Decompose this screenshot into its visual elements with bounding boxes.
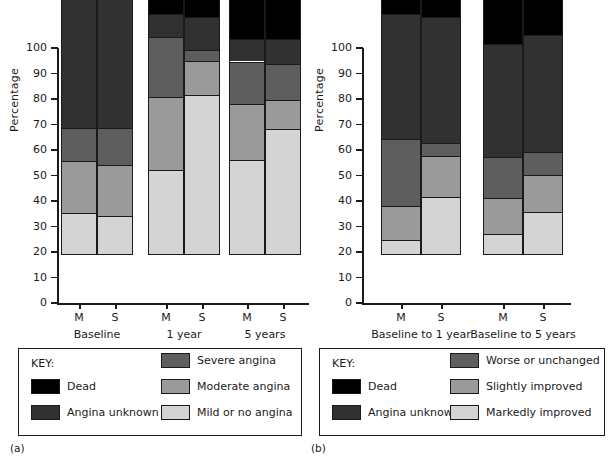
bar-segment[interactable] xyxy=(185,95,219,254)
legend-swatch xyxy=(161,353,190,368)
bar-segment[interactable] xyxy=(382,206,420,240)
bar-segment[interactable] xyxy=(62,213,96,254)
legend-label: Markedly improved xyxy=(486,406,592,419)
bar-segment[interactable] xyxy=(524,152,562,175)
bar-segment[interactable] xyxy=(382,240,420,254)
y-tick-label-0: 0 xyxy=(0,297,47,308)
bar-segment[interactable] xyxy=(149,97,183,170)
y-tick-100 xyxy=(51,47,58,49)
bar-segment[interactable] xyxy=(230,39,264,62)
x-tick-label: M xyxy=(161,311,171,324)
y-tick-label-60: 60 xyxy=(305,144,352,155)
bar-segment[interactable] xyxy=(266,39,300,65)
stacked-bar[interactable] xyxy=(523,0,563,255)
stacked-bar[interactable] xyxy=(483,0,523,255)
bar-segment[interactable] xyxy=(422,197,460,254)
stacked-bar[interactable] xyxy=(97,0,133,255)
bar-segment[interactable] xyxy=(230,62,264,104)
bar-segment[interactable] xyxy=(422,17,460,143)
y-tick-20 xyxy=(51,251,58,253)
bar-segment[interactable] xyxy=(98,165,132,216)
bar-segment[interactable] xyxy=(230,104,264,160)
x-tick-label: S xyxy=(112,311,119,324)
bar-segment[interactable] xyxy=(266,0,300,39)
bar-segment[interactable] xyxy=(422,0,460,17)
bar-segment[interactable] xyxy=(422,156,460,197)
bar-segment[interactable] xyxy=(98,0,132,128)
bar-segment[interactable] xyxy=(524,212,562,254)
y-tick-30 xyxy=(51,226,58,228)
bar-segment[interactable] xyxy=(62,128,96,161)
legend-label: Dead xyxy=(368,380,397,393)
bar-segment[interactable] xyxy=(185,0,219,17)
bar-segment[interactable] xyxy=(382,14,420,139)
x-group-label: 1 year xyxy=(166,328,201,341)
bar-segment[interactable] xyxy=(98,128,132,165)
y-tick-label-50: 50 xyxy=(0,170,47,181)
stacked-bar[interactable] xyxy=(184,0,220,255)
y-tick-label-20: 20 xyxy=(0,246,47,257)
bar-segment[interactable] xyxy=(382,139,420,205)
legend-item: Slightly improved xyxy=(450,379,582,394)
bar-segment[interactable] xyxy=(484,0,522,44)
y-tick-label-80: 80 xyxy=(305,93,352,104)
y-tick-label-70: 70 xyxy=(0,119,47,130)
bar-segment[interactable] xyxy=(524,35,562,152)
legend-label: Slightly improved xyxy=(486,380,582,393)
bar-segment[interactable] xyxy=(266,100,300,129)
bar-segment[interactable] xyxy=(185,61,219,94)
legend-item: Angina unknown xyxy=(332,405,460,420)
bar-segment[interactable] xyxy=(149,170,183,254)
y-tick-90 xyxy=(51,73,58,75)
stacked-bar[interactable] xyxy=(229,0,265,255)
x-tick-label: S xyxy=(540,311,547,324)
bar-segment[interactable] xyxy=(185,17,219,50)
bar-segment[interactable] xyxy=(422,143,460,156)
legend-swatch xyxy=(31,379,60,394)
bar-segment[interactable] xyxy=(524,175,562,212)
x-tick xyxy=(202,303,204,309)
bar-segment[interactable] xyxy=(484,157,522,198)
bar-segment[interactable] xyxy=(266,64,300,100)
legend-label: Worse or unchanged xyxy=(486,354,600,367)
bar-segment[interactable] xyxy=(524,0,562,35)
y-tick-20 xyxy=(356,251,363,253)
y-tick-40 xyxy=(356,200,363,202)
y-tick-10 xyxy=(51,277,58,279)
bar-segment[interactable] xyxy=(62,161,96,213)
legend-label: Severe angina xyxy=(197,354,276,367)
bar-segment[interactable] xyxy=(149,37,183,97)
x-tick xyxy=(503,303,505,309)
bar-segment[interactable] xyxy=(382,0,420,14)
x-tick xyxy=(283,303,285,309)
y-tick-60 xyxy=(356,149,363,151)
bar-segment[interactable] xyxy=(185,50,219,61)
legend-item: Markedly improved xyxy=(450,405,592,420)
stacked-bar[interactable] xyxy=(421,0,461,255)
y-tick-label-20: 20 xyxy=(305,246,352,257)
bar-segment[interactable] xyxy=(266,129,300,254)
x-tick-label: M xyxy=(242,311,252,324)
x-axis-line-b xyxy=(362,303,571,305)
y-tick-label-100: 100 xyxy=(305,42,352,53)
y-tick-0 xyxy=(51,302,58,304)
bar-segment[interactable] xyxy=(149,14,183,37)
stacked-bar[interactable] xyxy=(265,0,301,255)
x-tick xyxy=(543,303,545,309)
y-tick-label-90: 90 xyxy=(0,68,47,79)
stacked-bar[interactable] xyxy=(61,0,97,255)
bar-segment[interactable] xyxy=(484,44,522,157)
y-tick-label-10: 10 xyxy=(0,272,47,283)
x-group-label: 5 years xyxy=(245,328,286,341)
bar-segment[interactable] xyxy=(98,216,132,254)
y-tick-label-60: 60 xyxy=(0,144,47,155)
bar-segment[interactable] xyxy=(62,0,96,128)
stacked-bar[interactable] xyxy=(381,0,421,255)
bar-segment[interactable] xyxy=(484,198,522,234)
bar-segment[interactable] xyxy=(149,0,183,14)
bar-segment[interactable] xyxy=(230,0,264,39)
stacked-bar[interactable] xyxy=(148,0,184,255)
bar-segment[interactable] xyxy=(230,160,264,254)
y-tick-50 xyxy=(356,175,363,177)
bar-segment[interactable] xyxy=(484,234,522,254)
